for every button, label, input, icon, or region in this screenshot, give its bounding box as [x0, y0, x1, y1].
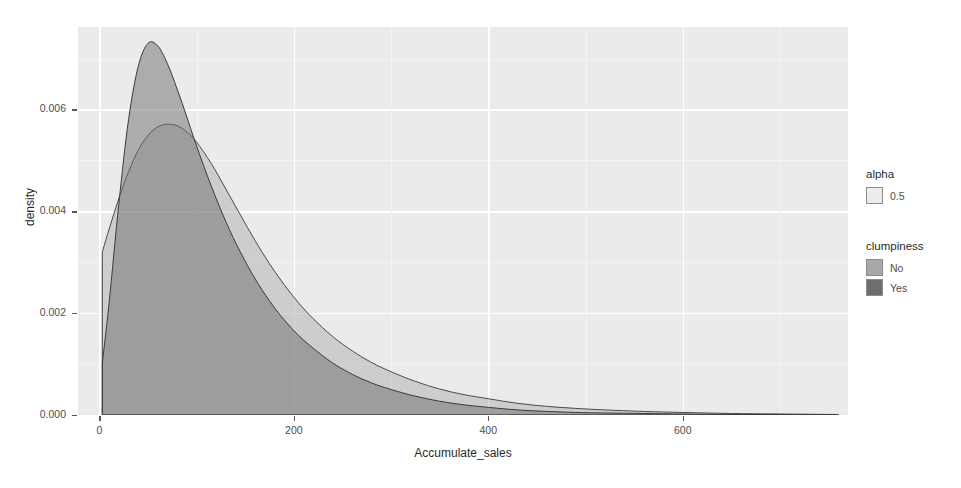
- y-tick-label: 0.000: [12, 409, 66, 420]
- legend-label-no: No: [890, 262, 903, 274]
- y-axis-label: density: [23, 147, 37, 267]
- density-curves: [78, 27, 848, 415]
- x-tick-mark: [99, 416, 100, 421]
- legend-item-clumpiness-no[interactable]: No: [866, 258, 924, 277]
- density-area-yes: [102, 42, 838, 415]
- x-tick-label: 400: [458, 424, 518, 436]
- x-tick-mark: [488, 416, 489, 421]
- x-tick-label: 0: [69, 424, 129, 436]
- legend-clumpiness-title: clumpiness: [866, 240, 924, 252]
- density-plot-figure: 0.0000.0020.0040.006 0200400600 Accumula…: [0, 0, 961, 488]
- x-tick-label: 200: [264, 424, 324, 436]
- legend-alpha: alpha 0.5: [866, 168, 905, 206]
- legend-label-yes: Yes: [890, 282, 907, 294]
- x-tick-mark: [294, 416, 295, 421]
- legend-swatch-yes: [866, 279, 883, 296]
- legend-swatch-no: [866, 259, 883, 276]
- y-tick-mark: [72, 313, 77, 314]
- legend-swatch-alpha: [866, 187, 883, 204]
- x-axis-label: Accumulate_sales: [78, 446, 848, 460]
- legend-alpha-title: alpha: [866, 168, 905, 180]
- legend-item-clumpiness-yes[interactable]: Yes: [866, 278, 924, 297]
- y-tick-label: 0.004: [12, 205, 66, 216]
- legend-item-alpha-0.5[interactable]: 0.5: [866, 186, 905, 205]
- legend-clumpiness: clumpiness No Yes: [866, 240, 924, 298]
- y-tick-mark: [72, 211, 77, 212]
- plot-panel: [78, 27, 848, 415]
- y-tick-mark: [72, 109, 77, 110]
- y-tick-label: 0.002: [12, 307, 66, 318]
- y-tick-mark: [72, 415, 77, 416]
- legend-label-alpha: 0.5: [890, 190, 905, 202]
- y-tick-label: 0.006: [12, 103, 66, 114]
- x-tick-label: 600: [653, 424, 713, 436]
- x-tick-mark: [683, 416, 684, 421]
